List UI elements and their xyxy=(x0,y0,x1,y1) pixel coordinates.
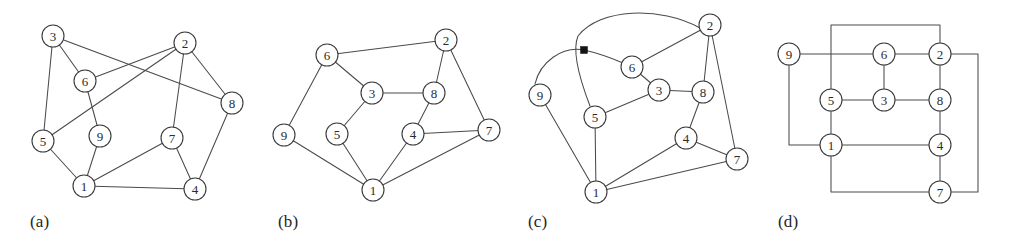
node-7: 7 xyxy=(929,181,951,203)
node-6: 6 xyxy=(873,43,895,65)
node-label: 7 xyxy=(937,185,944,200)
panel-d-drawing: 9 6 2 5 3 xyxy=(760,0,1012,248)
node-label: 7 xyxy=(486,123,493,138)
edge-6-2 xyxy=(632,25,710,67)
edge-4-1 xyxy=(596,138,686,192)
node-label: 3 xyxy=(50,29,57,44)
panel-d-nodes: 9 6 2 5 3 xyxy=(778,43,951,203)
node-4: 4 xyxy=(675,127,697,149)
node-label: 1 xyxy=(81,179,88,194)
node-label: 3 xyxy=(656,83,663,98)
node-9: 9 xyxy=(778,43,800,65)
node-5: 5 xyxy=(32,130,54,152)
node-label: 2 xyxy=(182,36,189,51)
node-label: 4 xyxy=(192,182,199,197)
node-label: 3 xyxy=(881,93,888,108)
node-1: 1 xyxy=(362,179,384,201)
node-7: 7 xyxy=(726,148,748,170)
panel-c: 2 6 3 8 9 xyxy=(506,0,760,248)
node-label: 8 xyxy=(431,86,438,101)
node-label: 9 xyxy=(786,47,793,62)
panel-a-drawing: 3 2 6 8 5 xyxy=(0,0,253,248)
node-4: 4 xyxy=(184,178,206,200)
node-label: 7 xyxy=(169,131,176,146)
node-label: 3 xyxy=(369,86,376,101)
node-3: 3 xyxy=(873,89,895,111)
node-label: 6 xyxy=(324,48,331,63)
node-label: 5 xyxy=(592,110,599,125)
crossing-marker xyxy=(581,47,588,54)
node-label: 8 xyxy=(229,96,236,111)
panel-c-drawing: 2 6 3 8 9 xyxy=(506,0,760,248)
edge-6-2 xyxy=(327,40,446,55)
panel-a-edges xyxy=(43,36,232,189)
node-label: 4 xyxy=(683,131,690,146)
node-9: 9 xyxy=(273,124,295,146)
node-label: 1 xyxy=(370,183,377,198)
node-label: 7 xyxy=(734,152,741,167)
node-label: 8 xyxy=(937,93,944,108)
panel-b-edges xyxy=(284,40,489,190)
panel-b-nodes: 2 6 3 8 9 xyxy=(273,29,500,201)
panel-a: 3 2 6 8 5 xyxy=(0,0,253,248)
node-label: 2 xyxy=(707,18,714,33)
edge-2-7 xyxy=(172,43,185,138)
node-3: 3 xyxy=(648,79,670,101)
node-3: 3 xyxy=(42,25,64,47)
edge-1-4 xyxy=(84,186,195,189)
node-3: 3 xyxy=(361,82,383,104)
node-7: 7 xyxy=(161,127,183,149)
node-6: 6 xyxy=(621,56,643,78)
panel-b-caption: (b) xyxy=(278,212,298,232)
edge-7-2 xyxy=(940,54,978,192)
node-4: 4 xyxy=(402,123,424,145)
node-label: 6 xyxy=(629,60,636,75)
node-6: 6 xyxy=(316,44,338,66)
panel-c-caption: (c) xyxy=(528,212,547,232)
node-8: 8 xyxy=(221,92,243,114)
node-2: 2 xyxy=(929,43,951,65)
node-5: 5 xyxy=(326,123,348,145)
node-7: 7 xyxy=(478,119,500,141)
edge-1-7 xyxy=(373,130,489,190)
node-5: 5 xyxy=(820,89,842,111)
node-6: 6 xyxy=(74,70,96,92)
panel-c-nodes: 2 6 3 8 9 xyxy=(529,14,748,203)
node-8: 8 xyxy=(423,82,445,104)
node-9: 9 xyxy=(529,84,551,106)
node-1: 1 xyxy=(73,175,95,197)
node-label: 2 xyxy=(937,47,944,62)
node-label: 9 xyxy=(97,129,104,144)
edge-3-5 xyxy=(43,36,53,141)
node-5: 5 xyxy=(584,106,606,128)
node-label: 1 xyxy=(593,185,600,200)
node-9: 9 xyxy=(89,125,111,147)
node-label: 5 xyxy=(828,93,835,108)
edge-6-9 xyxy=(284,55,327,135)
edge-9-6-curved xyxy=(535,49,623,84)
node-2: 2 xyxy=(435,29,457,51)
edge-2-5 xyxy=(43,43,185,141)
node-2: 2 xyxy=(174,32,196,54)
node-label: 1 xyxy=(828,138,835,153)
node-1: 1 xyxy=(820,134,842,156)
node-8: 8 xyxy=(929,89,951,111)
edge-2-7 xyxy=(446,40,489,130)
panel-d: 9 6 2 5 3 xyxy=(760,0,1012,248)
node-8: 8 xyxy=(692,81,714,103)
node-label: 5 xyxy=(334,127,341,142)
node-label: 6 xyxy=(881,47,888,62)
edge-9-1 xyxy=(284,135,373,190)
panel-b-drawing: 2 6 3 8 9 xyxy=(253,0,506,248)
graph-figure: 3 2 6 8 5 xyxy=(0,0,1012,248)
panel-d-caption: (d) xyxy=(778,212,798,232)
node-label: 9 xyxy=(281,128,288,143)
node-label: 6 xyxy=(82,74,89,89)
node-label: 9 xyxy=(537,88,544,103)
panel-b: 2 6 3 8 9 xyxy=(253,0,506,248)
node-label: 8 xyxy=(700,85,707,100)
node-2: 2 xyxy=(699,14,721,36)
edge-4-8 xyxy=(195,103,232,189)
edge-1-7 xyxy=(831,145,940,192)
panel-a-caption: (a) xyxy=(30,212,49,232)
